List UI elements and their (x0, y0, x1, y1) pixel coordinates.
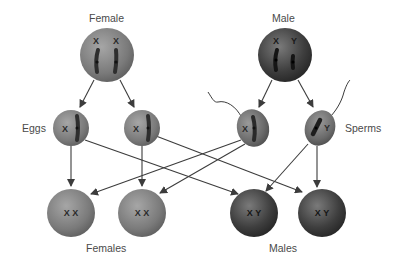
sperms-label: Sperms (345, 122, 381, 134)
egg-cell-1: X (53, 110, 89, 146)
offspring-female-1: X X (47, 189, 95, 237)
inheritance-diagram: X X X Y X X X Y (0, 0, 401, 265)
eggs-label: Eggs (22, 122, 46, 134)
egg-cell-2: X (124, 110, 160, 146)
svg-text:X: X (133, 124, 139, 134)
offspring-male-2: X Y (298, 189, 346, 237)
male-parent-cell: X Y (258, 28, 312, 82)
svg-text:X: X (273, 36, 279, 46)
offspring-female-2: X X (118, 189, 166, 237)
svg-text:X: X (93, 36, 99, 46)
svg-text:Y: Y (291, 36, 297, 46)
svg-text:Y: Y (324, 123, 330, 133)
male-label: Male (272, 12, 295, 24)
parent-to-gamete-arrows (80, 80, 313, 107)
svg-text:X X: X X (135, 208, 150, 218)
svg-text:X Y: X Y (315, 208, 329, 218)
svg-text:X Y: X Y (247, 208, 261, 218)
females-label: Females (86, 242, 126, 254)
gamete-to-offspring-arrows (71, 136, 317, 194)
female-label: Female (89, 12, 124, 24)
svg-text:X: X (113, 36, 119, 46)
sperm-tails (208, 80, 350, 118)
female-parent-cell: X X (80, 28, 134, 82)
svg-text:X X: X X (64, 208, 79, 218)
offspring-male-1: X Y (230, 189, 278, 237)
males-label: Males (269, 242, 297, 254)
svg-text:X: X (62, 124, 68, 134)
svg-text:X: X (242, 124, 248, 134)
